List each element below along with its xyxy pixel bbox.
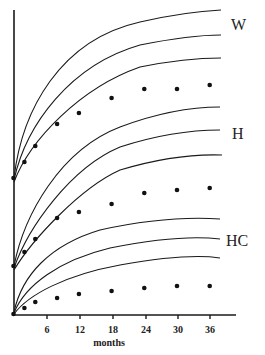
x-axis-label: months [93, 337, 125, 348]
tick-label-30: 30 [173, 324, 183, 335]
x-tick-labels: 6 12 18 24 30 36 [45, 324, 216, 335]
data-point-hc [22, 306, 27, 311]
data-point-w [207, 83, 212, 88]
growth-chart: 6 12 18 24 30 36 months W H HC [0, 0, 265, 355]
h-curve-upper [14, 107, 220, 266]
tick-label-6: 6 [45, 324, 50, 335]
data-point-hc [11, 312, 16, 317]
tick-label-12: 12 [75, 324, 85, 335]
data-point-w [22, 160, 27, 165]
data-point-hc [33, 300, 38, 305]
data-point-hc [55, 296, 60, 301]
data-point-w [77, 111, 82, 116]
h-curves [14, 107, 222, 270]
data-point-h [77, 210, 82, 215]
data-point-h [11, 264, 16, 269]
data-point-h [22, 250, 27, 255]
data-point-h [109, 202, 114, 207]
group-label-hc: HC [226, 232, 248, 249]
tick-label-24: 24 [141, 324, 151, 335]
hc-curve-middle [14, 238, 220, 313]
data-point-w [33, 144, 38, 149]
data-point-h [55, 216, 60, 221]
data-point-w [55, 122, 60, 127]
h-curve-lower [14, 155, 222, 270]
data-point-w [175, 87, 180, 92]
group-label-w: W [231, 16, 247, 33]
w-curve-upper [14, 10, 221, 178]
tick-label-18: 18 [108, 324, 118, 335]
w-curve-middle [14, 35, 221, 180]
data-point-w [142, 87, 147, 92]
data-point-hc [207, 284, 212, 289]
hc-curves [14, 218, 220, 314]
data-point-hc [109, 289, 114, 294]
w-curve-lower [14, 58, 221, 182]
data-point-hc [142, 286, 147, 291]
data-point-w [109, 96, 114, 101]
group-label-h: H [232, 125, 244, 142]
data-point-h [175, 188, 180, 193]
data-point-hc [175, 284, 180, 289]
data-point-w [11, 176, 16, 181]
tick-label-36: 36 [205, 324, 215, 335]
data-point-h [33, 237, 38, 242]
h-curve-middle [14, 130, 220, 268]
data-point-h [142, 191, 147, 196]
data-point-hc [77, 292, 82, 297]
hc-curve-lower [14, 257, 220, 314]
data-point-h [207, 186, 212, 191]
